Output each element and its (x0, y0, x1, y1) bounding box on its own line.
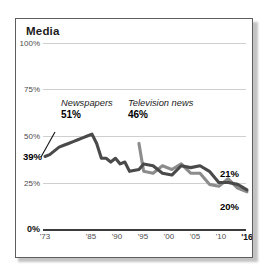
newspapers-line (45, 134, 247, 190)
newspapers-peak-value: 51% (61, 109, 113, 121)
end-value-21: 21% (220, 168, 239, 179)
plot-area: 100% 75% 50% 25% 0% '73 '85 '90 '95 '00 … (16, 19, 253, 258)
chart-panel: Media 100% 75% 50% 25% 0% '73 '85 '90 '9… (15, 18, 253, 258)
media-trust-chart-figure: Media 100% 75% 50% 25% 0% '73 '85 '90 '9… (0, 0, 273, 278)
end-value-20: 20% (220, 201, 239, 212)
television-news-annotation: Television news 46% (128, 98, 193, 121)
newspapers-annotation: Newspapers 51% (61, 98, 113, 121)
television-news-peak-value: 46% (128, 109, 193, 121)
start-value-39: 39% (23, 151, 42, 162)
newspapers-series-label: Newspapers (61, 98, 113, 109)
television-news-series-label: Television news (128, 98, 193, 109)
series-lines (16, 19, 253, 258)
